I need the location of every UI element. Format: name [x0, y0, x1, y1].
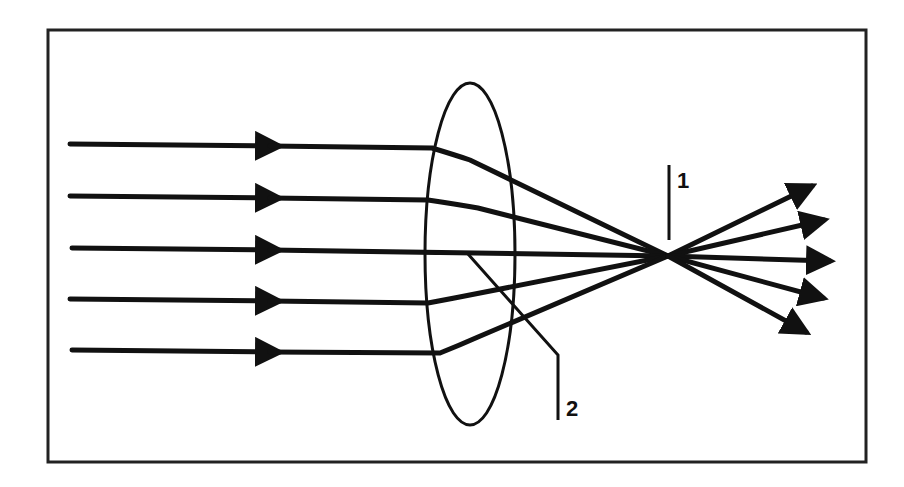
outgoing-rays: [668, 186, 830, 332]
lens-ray-diagram: [0, 0, 904, 487]
ray-1: [70, 144, 270, 146]
label-focal-point: 1: [677, 170, 689, 192]
diagram-frame: [48, 30, 866, 462]
ray-2: [70, 196, 270, 198]
ray-5: [72, 350, 270, 352]
incoming-rays: [70, 144, 668, 353]
ray-4: [70, 299, 270, 301]
ray-3: [72, 248, 270, 250]
label-lens: 2: [566, 398, 578, 420]
